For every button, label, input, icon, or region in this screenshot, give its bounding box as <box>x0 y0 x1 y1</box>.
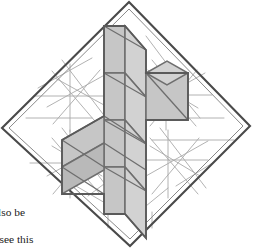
figure-container: also be n see this <box>0 0 253 250</box>
caption-line-2 <box>0 220 112 234</box>
caption-line-1: also be <box>0 206 112 220</box>
cross-column-left-face-top <box>104 26 125 73</box>
cross-column-left-face-upper <box>104 73 125 120</box>
caption-line-3: n see this <box>0 233 112 247</box>
caption-block: also be n see this <box>0 206 112 247</box>
